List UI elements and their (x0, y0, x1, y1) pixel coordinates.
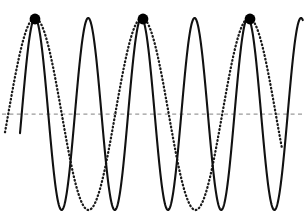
plot-canvas (0, 0, 305, 222)
peak-marker-1 (30, 14, 41, 25)
peak-marker-2 (138, 14, 149, 25)
waveform-figure (0, 0, 305, 222)
peak-marker-3 (245, 14, 256, 25)
